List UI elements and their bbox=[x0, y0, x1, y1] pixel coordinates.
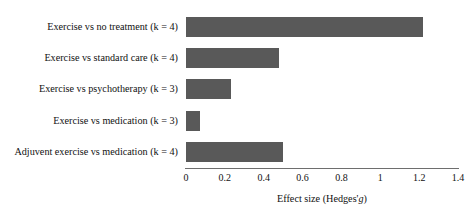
bar bbox=[186, 17, 423, 37]
x-tick-label: 0.2 bbox=[219, 171, 232, 185]
x-tick-label: 0 bbox=[184, 171, 189, 185]
x-axis-title-close: ) bbox=[364, 193, 367, 204]
category-label: Exercise vs medication (k = 3) bbox=[0, 115, 178, 127]
bar bbox=[186, 79, 231, 99]
bar-chart: Exercise vs no treatment (k = 4)Exercise… bbox=[0, 0, 472, 216]
x-tick-label: 0.6 bbox=[296, 171, 309, 185]
category-axis-labels: Exercise vs no treatment (k = 4)Exercise… bbox=[0, 0, 182, 170]
x-tick-label: 1.4 bbox=[452, 171, 465, 185]
x-tick-label: 1 bbox=[378, 171, 383, 185]
category-label: Exercise vs psychotherapy (k = 3) bbox=[0, 83, 178, 95]
x-axis-title: Effect size (Hedges'g) bbox=[186, 192, 458, 205]
x-axis-line bbox=[185, 168, 459, 169]
x-axis-title-main: Effect size (Hedges' bbox=[277, 193, 358, 204]
bar bbox=[186, 48, 279, 68]
bar bbox=[186, 142, 283, 162]
category-label: Adjuvent exercise vs medication (k = 4) bbox=[0, 146, 178, 158]
category-label: Exercise vs no treatment (k = 4) bbox=[0, 21, 178, 33]
x-tick-label: 1.2 bbox=[413, 171, 426, 185]
bar bbox=[186, 111, 200, 131]
x-axis-tick-labels: 00.20.40.60.811.21.4 bbox=[0, 171, 472, 187]
plot-area bbox=[186, 0, 458, 170]
category-label: Exercise vs standard care (k = 4) bbox=[0, 52, 178, 64]
x-tick-label: 0.4 bbox=[257, 171, 270, 185]
x-tick-label: 0.8 bbox=[335, 171, 348, 185]
